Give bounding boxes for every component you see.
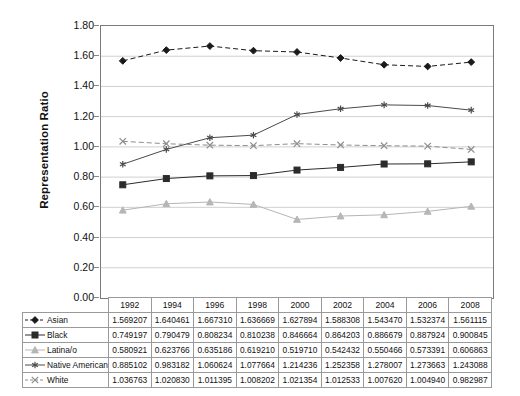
table-cell: 1.640461 xyxy=(151,313,194,328)
table-cell: 0.885102 xyxy=(108,358,151,373)
table-row: Asian1.5692071.6404611.6673101.6366691.6… xyxy=(23,313,492,328)
table-year-header: 1992 xyxy=(108,298,151,313)
legend-entry-latina-o: Latina/o xyxy=(23,343,109,358)
data-point-marker xyxy=(381,61,388,68)
data-table: 199219941996199820002002200420062008 Asi… xyxy=(22,297,492,388)
data-point-marker xyxy=(468,203,475,209)
y-axis-tick-mark xyxy=(94,85,99,86)
table-cell: 1.543470 xyxy=(364,313,407,328)
table-cell: 0.550466 xyxy=(364,343,407,358)
table-year-header: 1996 xyxy=(194,298,237,313)
table-cell: 1.273663 xyxy=(406,358,449,373)
legend-key-cross-x-icon xyxy=(25,375,45,385)
table-year-header: 1994 xyxy=(151,298,194,313)
table-cell: 1.252358 xyxy=(321,358,364,373)
diamond-marker xyxy=(163,47,170,54)
table-cell: 0.573391 xyxy=(406,343,449,358)
y-axis-tick-label: 0.60 xyxy=(48,201,94,211)
y-axis-tick-label: 1.40 xyxy=(48,80,94,90)
table-cell: 0.623766 xyxy=(151,343,194,358)
gridlines xyxy=(101,56,493,268)
y-axis-tick-label: 0.40 xyxy=(48,232,94,242)
data-point-marker xyxy=(206,43,213,50)
square-marker xyxy=(425,161,431,167)
table-year-header: 2004 xyxy=(364,298,407,313)
square-marker xyxy=(381,161,387,167)
y-axis-tick-mark xyxy=(94,116,99,117)
table-year-header: 2008 xyxy=(449,298,492,313)
square-marker xyxy=(120,182,126,188)
table-corner-cell xyxy=(23,298,109,313)
table-cell: 0.619210 xyxy=(236,343,279,358)
y-axis-tick-label: 1.60 xyxy=(48,50,94,60)
legend-series-label: White xyxy=(47,375,68,385)
table-cell: 0.749197 xyxy=(108,328,151,343)
series-line xyxy=(123,141,471,149)
table-year-header: 2000 xyxy=(279,298,322,313)
legend-key-square-icon xyxy=(25,330,45,340)
table-cell: 0.606863 xyxy=(449,343,492,358)
y-axis-tick-label: 1.00 xyxy=(48,141,94,151)
square-marker xyxy=(468,159,474,165)
legend-key-diamond-icon xyxy=(25,315,45,325)
legend-key xyxy=(25,345,45,355)
square-marker xyxy=(163,176,169,182)
table-cell: 0.808234 xyxy=(194,328,237,343)
legend-key xyxy=(25,315,45,325)
legend-key xyxy=(25,360,45,370)
diamond-marker xyxy=(424,63,431,70)
y-axis-tick-mark xyxy=(94,55,99,56)
table-cell: 1.077664 xyxy=(236,358,279,373)
y-axis-tick-label: 0.20 xyxy=(48,262,94,272)
table-cell: 1.020830 xyxy=(151,373,194,388)
legend-key xyxy=(25,375,45,385)
table-row: White1.0367631.0208301.0113951.0082021.0… xyxy=(23,373,492,388)
asterisk-marker xyxy=(120,161,126,168)
square-marker xyxy=(338,164,344,170)
data-point-marker xyxy=(32,332,38,338)
diamond-marker xyxy=(32,317,39,324)
data-point-marker xyxy=(294,167,300,173)
square-marker xyxy=(250,173,256,179)
table-cell: 1.636669 xyxy=(236,313,279,328)
legend-key-triangle-icon xyxy=(25,345,45,355)
table-cell: 1.532374 xyxy=(406,313,449,328)
data-point-marker xyxy=(424,63,431,70)
diamond-marker xyxy=(468,59,475,66)
legend-series-label: Latina/o xyxy=(47,345,77,355)
table-cell: 1.588308 xyxy=(321,313,364,328)
data-point-marker xyxy=(163,176,169,182)
table-cell: 1.011395 xyxy=(194,373,237,388)
table-cell: 0.846664 xyxy=(279,328,322,343)
table-cell: 0.983182 xyxy=(151,358,194,373)
table-cell: 0.519710 xyxy=(279,343,322,358)
data-point-marker xyxy=(468,159,474,165)
table-cell: 1.243088 xyxy=(449,358,492,373)
diamond-marker xyxy=(119,57,126,64)
table-cell: 0.886679 xyxy=(364,328,407,343)
table-cell: 0.900845 xyxy=(449,328,492,343)
table-year-header: 2002 xyxy=(321,298,364,313)
chart-figure: Representation Ratio 0.000.200.400.600.8… xyxy=(0,0,520,396)
table-cell: 1.561115 xyxy=(449,313,492,328)
table-cell: 1.021354 xyxy=(279,373,322,388)
data-point-marker xyxy=(163,47,170,54)
diamond-marker xyxy=(294,49,301,56)
data-point-marker xyxy=(381,161,387,167)
y-axis-tick-label: 1.20 xyxy=(48,111,94,121)
square-marker xyxy=(294,167,300,173)
triangle-marker xyxy=(468,203,475,209)
table-row: Latina/o0.5809210.6237660.6351860.619210… xyxy=(23,343,492,358)
series-black xyxy=(120,159,474,188)
data-point-marker xyxy=(32,317,39,324)
legend-entry-native-american: Native American xyxy=(23,358,109,373)
y-axis-tick-mark xyxy=(94,237,99,238)
legend-series-label: Native American xyxy=(47,360,108,370)
plot-area xyxy=(100,25,494,299)
square-marker xyxy=(32,332,38,338)
diamond-marker xyxy=(206,43,213,50)
y-axis-tick-label: 1.80 xyxy=(48,20,94,30)
table-cell: 0.982987 xyxy=(449,373,492,388)
table-cell: 1.007620 xyxy=(364,373,407,388)
table-cell: 0.887924 xyxy=(406,328,449,343)
